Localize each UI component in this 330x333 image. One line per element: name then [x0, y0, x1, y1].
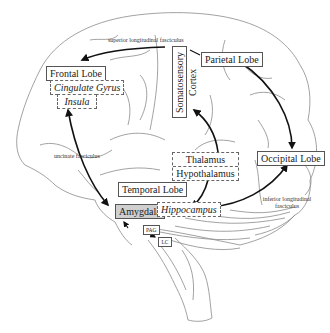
region-insula: Insula [57, 94, 97, 109]
label-inferior-longitudinal-line1: inferior longitudinal [262, 196, 312, 203]
region-pag: PAG [143, 225, 160, 235]
region-somatosensory-cortex: Somatosensory Cortex [172, 46, 187, 118]
arrow-pag-amygdala [124, 222, 128, 228]
region-thalamus: Thalamus [173, 153, 238, 167]
label-inferior-longitudinal-fasciculus: inferior longitudinal fasciculus [262, 196, 312, 210]
brain-illustration [0, 0, 330, 333]
region-cingulate-gyrus: Cingulate Gyrus [50, 80, 124, 95]
region-parietal-lobe: Parietal Lobe [201, 52, 263, 67]
region-frontal-lobe: Frontal Lobe [46, 66, 106, 81]
region-thalamus-hypothalamus: Thalamus Hypothalamus [172, 152, 239, 181]
region-lc: LC [158, 237, 172, 247]
region-hippocampus: Hippocampus [157, 202, 221, 217]
region-temporal-lobe: Temporal Lobe [118, 182, 187, 197]
arrow-parietal-occipital [240, 62, 292, 148]
arrow-superior-longitudinal [82, 47, 165, 60]
label-superior-longitudinal-fasciculus: superior longitudinal fasciculus [108, 37, 184, 44]
arrow-thalamus-soma [194, 110, 218, 152]
brain-outline [17, 13, 317, 322]
label-uncinate-fasciculus: uncinate fasciculus [54, 153, 100, 160]
label-inferior-longitudinal-line2: fasciculus [262, 203, 312, 210]
region-hypothalamus: Hypothalamus [173, 167, 238, 180]
region-occipital-lobe: Occipital Lobe [257, 151, 325, 166]
